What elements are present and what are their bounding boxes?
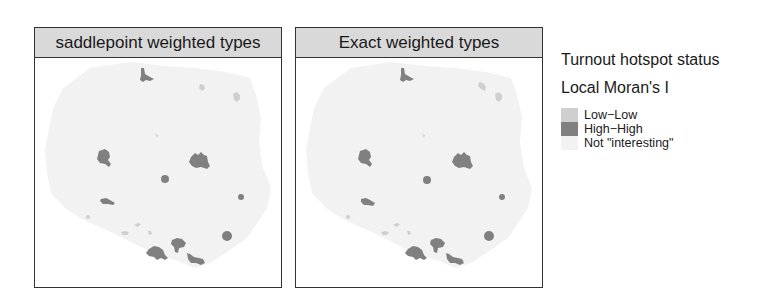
map-saddlepoint xyxy=(35,58,281,287)
legend-label: High−High xyxy=(584,122,643,136)
legend: Turnout hotspot status Local Moran's I L… xyxy=(561,50,720,150)
facet-strip-title: Exact weighted types xyxy=(296,28,542,58)
legend-item-high-high: High−High xyxy=(561,122,720,136)
legend-items: Low−Low High−High Not "interesting" xyxy=(561,108,720,150)
legend-key-swatch xyxy=(561,122,578,136)
legend-key-swatch xyxy=(561,136,578,150)
facet-panel-saddlepoint: saddlepoint weighted types xyxy=(34,27,282,288)
legend-key-swatch xyxy=(561,108,578,122)
legend-title: Turnout hotspot status xyxy=(561,50,720,70)
map-exact xyxy=(296,58,542,287)
legend-item-not-interesting: Not "interesting" xyxy=(561,136,720,150)
facet-panel-exact: Exact weighted types xyxy=(295,27,543,288)
legend-subtitle: Local Moran's I xyxy=(561,78,720,98)
legend-label: Not "interesting" xyxy=(584,136,673,150)
facet-strip-title: saddlepoint weighted types xyxy=(35,28,281,58)
legend-item-low-low: Low−Low xyxy=(561,108,720,122)
legend-label: Low−Low xyxy=(584,108,637,122)
